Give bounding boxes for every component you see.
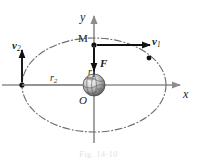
radius-r2-subscript: 2 [54,77,57,84]
force-label: F [100,58,107,69]
radius-r2-label: r2 [50,73,57,84]
velocity-v2-label: v2 [12,40,21,53]
radius-lines [22,45,94,85]
radius-r1-subscript: 1 [92,71,95,78]
radius-r1-label: r1 [88,67,95,78]
figure-canvas [0,0,197,161]
orbital-mechanics-figure: y x M O F r1 r2 v1 v2 Fig. 14-10 [0,0,197,161]
velocity-v2-subscript: 2 [17,45,21,53]
satellite-mass-label: M [78,33,88,44]
velocity-v1-subscript: 1 [157,41,161,49]
origin-label: O [79,95,87,106]
figure-caption: Fig. 14-10 [0,150,197,159]
velocity-v1-label: v1 [152,36,161,49]
y-axis-label: y [80,11,85,23]
marker-orbit-point [147,56,152,61]
x-axis-label: x [183,88,188,100]
